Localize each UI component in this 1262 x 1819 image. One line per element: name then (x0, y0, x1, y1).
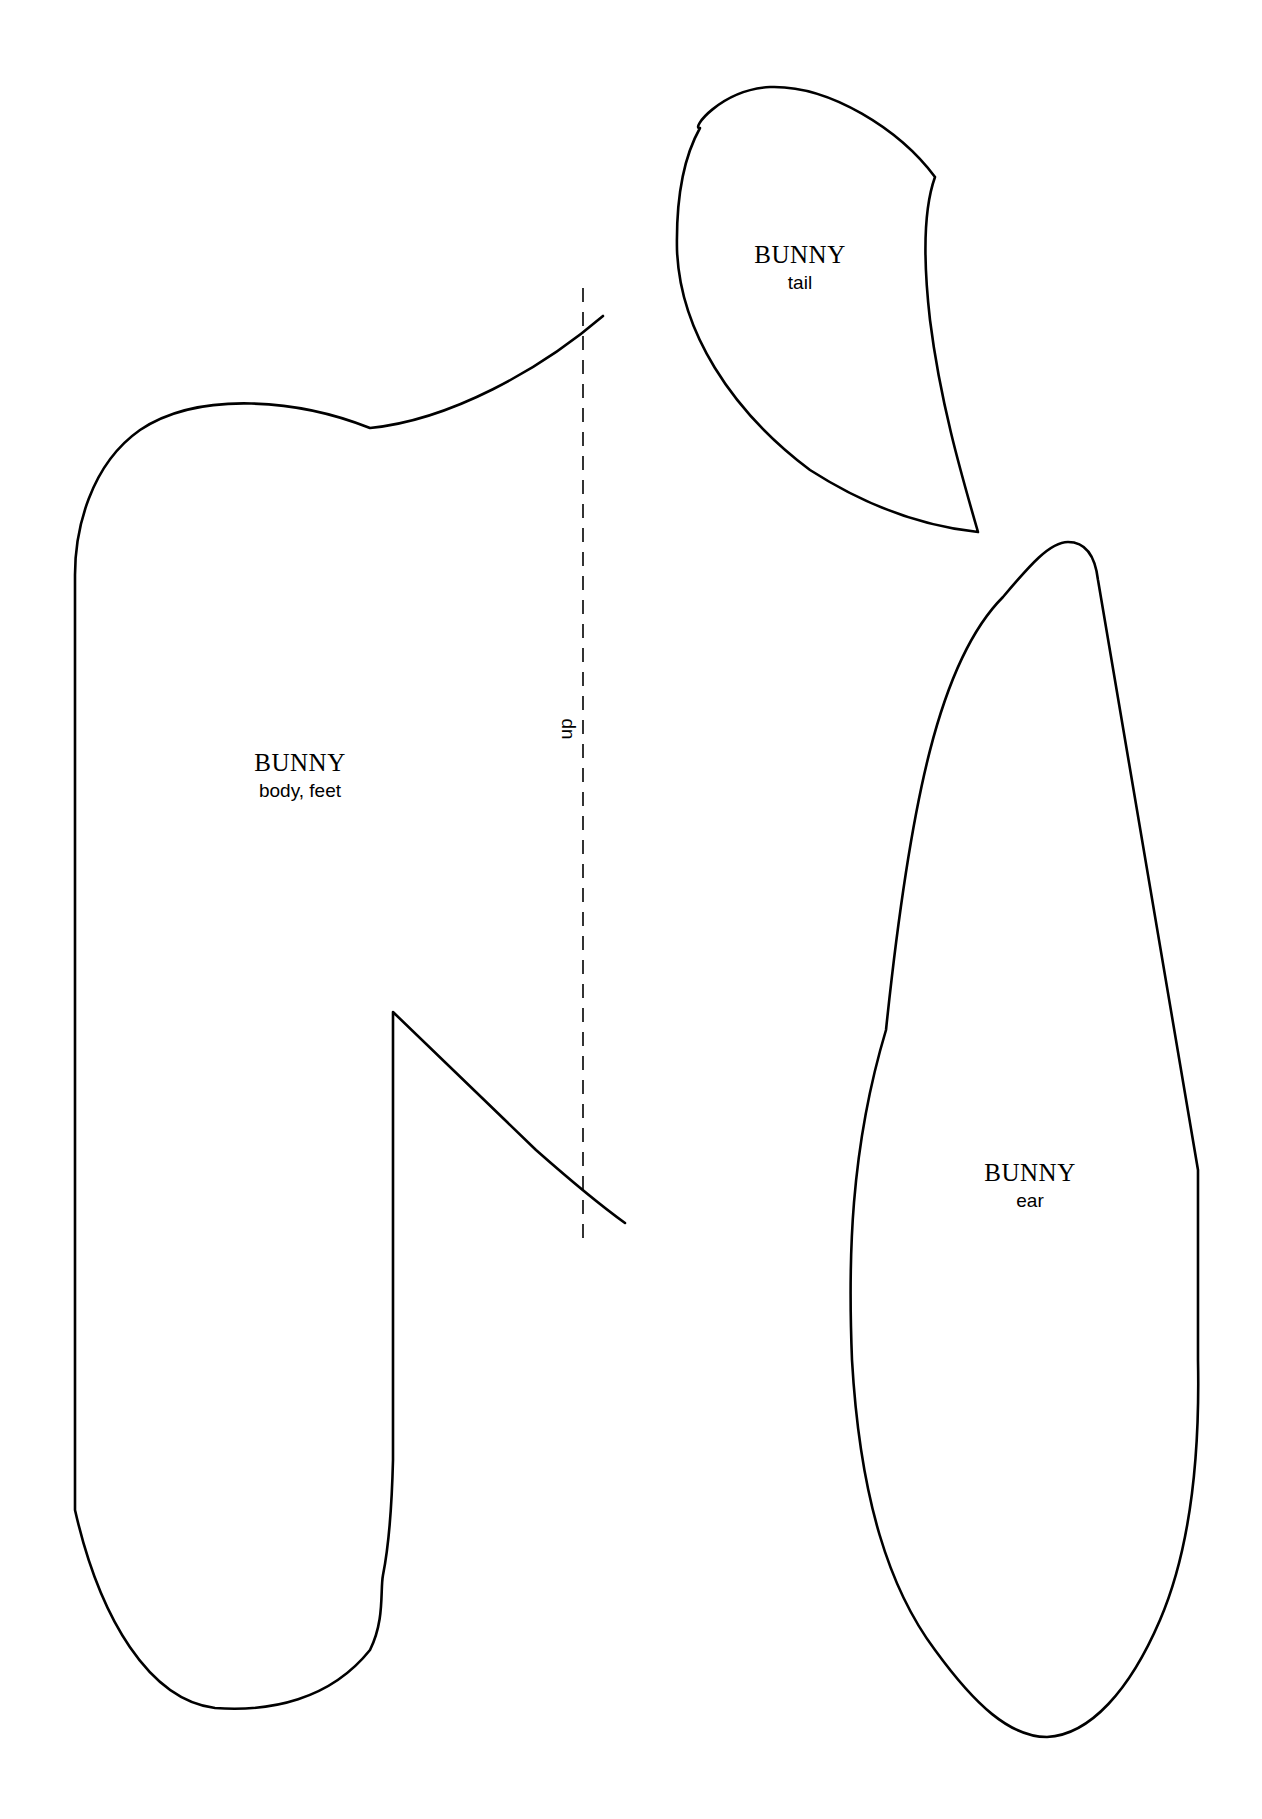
pattern-page: BUNNY body, feet BUNNY tail BUNNY ear up (0, 0, 1262, 1819)
body-label-subtitle: body, feet (190, 778, 410, 804)
ear-label: BUNNY ear (950, 1158, 1110, 1214)
body-label-title: BUNNY (190, 748, 410, 778)
tail-outline (677, 87, 978, 532)
tail-piece (677, 87, 978, 532)
tail-label-title: BUNNY (720, 240, 880, 270)
fold-up-label: up (555, 714, 577, 744)
ear-label-title: BUNNY (950, 1158, 1110, 1188)
ear-piece (851, 542, 1199, 1737)
tail-label: BUNNY tail (720, 240, 880, 296)
ear-outline (851, 542, 1199, 1737)
body-label: BUNNY body, feet (190, 748, 410, 804)
ear-label-subtitle: ear (950, 1188, 1110, 1214)
body-outline (75, 316, 625, 1709)
tail-label-subtitle: tail (720, 270, 880, 296)
pattern-drawing (0, 0, 1262, 1819)
body-piece (75, 316, 625, 1709)
